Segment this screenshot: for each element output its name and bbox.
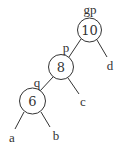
edge-q-a (15, 112, 24, 129)
node-role-label: q (34, 75, 41, 90)
subtree-label-a: a (9, 130, 15, 145)
subtree-label-c: c (80, 94, 86, 109)
node-value: 10 (81, 23, 98, 38)
edge-gp-p (69, 39, 81, 57)
edge-p-q (40, 77, 53, 91)
tree-node-p: 8 p (49, 40, 74, 80)
subtree-label-d: d (107, 58, 114, 73)
tree-node-gp: 10 gp (78, 2, 102, 43)
edge-gp-d (97, 40, 107, 57)
node-role-label: p (63, 40, 70, 55)
node-value: 8 (57, 60, 65, 75)
subtree-label-b: b (53, 128, 60, 143)
edge-p-c (68, 78, 79, 94)
edge-q-b (41, 112, 50, 127)
node-role-label: gp (84, 2, 97, 17)
tree-node-q: 6 q (20, 75, 46, 115)
node-value: 6 (28, 94, 36, 109)
binary-tree-diagram: 10 gp 8 p 6 q a b c d (0, 0, 122, 150)
